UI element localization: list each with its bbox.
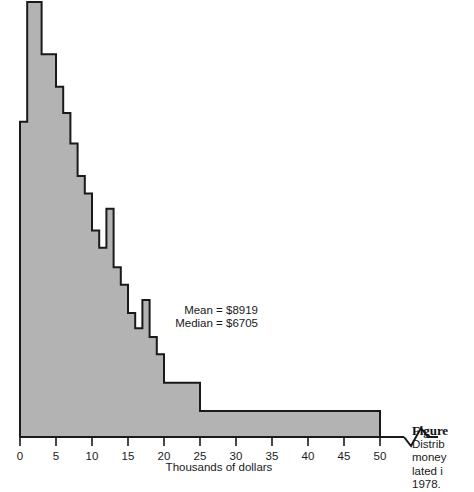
x-axis-ticks <box>20 438 380 446</box>
x-axis-title: Thousands of dollars <box>166 461 273 473</box>
histogram-bars <box>20 2 380 437</box>
x-tick-label-40: 40 <box>302 450 315 462</box>
figure-caption-line-1: Distrib <box>412 438 474 452</box>
median-annotation: Median = $6705 <box>175 317 258 329</box>
histogram-outline <box>20 2 380 437</box>
statistics-annotation: Mean = $8919 Median = $6705 <box>175 304 258 329</box>
figure-caption: Figure Distribmoneylated i1978. <box>412 424 474 492</box>
x-tick-label-45: 45 <box>338 450 351 462</box>
figure-caption-line-2: money <box>412 451 474 465</box>
x-tick-label-0: 0 <box>17 450 23 462</box>
x-tick-label-10: 10 <box>86 450 99 462</box>
figure-caption-title: Figure <box>412 424 474 438</box>
x-tick-label-5: 5 <box>53 450 59 462</box>
figure-caption-line-3: lated i <box>412 465 474 479</box>
mean-annotation: Mean = $8919 <box>184 304 258 316</box>
figure-caption-line-4: 1978. <box>412 478 474 492</box>
x-tick-label-50: 50 <box>374 450 387 462</box>
figure-caption-body: Distribmoneylated i1978. <box>412 438 474 492</box>
x-tick-label-15: 15 <box>122 450 135 462</box>
